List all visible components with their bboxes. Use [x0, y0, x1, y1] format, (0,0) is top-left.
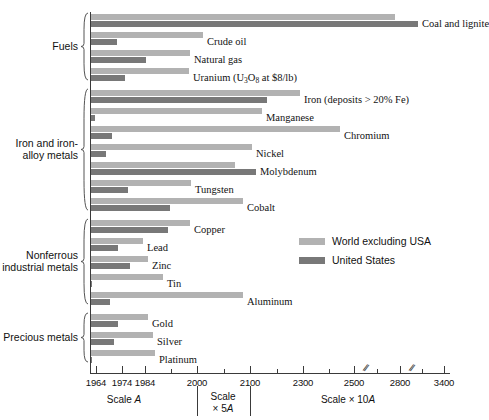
legend-item-world: World excluding USA	[299, 236, 431, 247]
group-label-iron-and-iron-alloy-metals: Iron and iron- alloy metals	[16, 137, 78, 162]
group-label-nonferrous-industrial-metals: Nonferrous industrial metals	[2, 249, 78, 274]
x-tick-2000	[197, 366, 198, 374]
group-brace-precious-metals	[80, 312, 89, 363]
bar-label-aluminum: Aluminum	[247, 296, 293, 308]
scale-divider-2	[250, 386, 251, 416]
bar-world-uranium	[91, 68, 189, 74]
bar-usa-cobalt	[91, 205, 170, 211]
group-brace-iron-and-iron-alloy-metals	[80, 88, 89, 211]
group-label-precious-metals: Precious metals	[3, 331, 78, 344]
bar-world-coal-and-lignite	[91, 14, 395, 20]
x-tick-3400	[444, 366, 445, 374]
bar-usa-zinc	[91, 263, 130, 269]
x-tick-label-2500: 2500	[344, 377, 364, 388]
bar-label-copper: Copper	[194, 224, 225, 236]
bar-usa-chromium	[91, 133, 112, 139]
bar-world-cobalt	[91, 198, 243, 204]
bar-usa-molybdenum	[91, 169, 256, 175]
bar-usa-natural-gas	[91, 57, 146, 63]
x-tick-1974	[122, 366, 123, 374]
bar-label-lead: Lead	[147, 242, 168, 254]
bar-world-lead	[91, 238, 143, 244]
scale-divider-1	[197, 386, 198, 416]
group-brace-fuels	[80, 12, 89, 81]
x-tick-label-2800: 2800	[390, 377, 410, 388]
bar-world-manganese	[91, 108, 262, 114]
bar-world-chromium	[91, 126, 340, 132]
x-tick-label-1984: 1984	[135, 377, 155, 388]
scale-caption-1: Scale A	[107, 394, 141, 406]
bar-label-natural-gas: Natural gas	[194, 54, 242, 66]
bar-usa-platinum	[91, 357, 92, 363]
bar-label-nickel: Nickel	[256, 148, 284, 160]
x-tick-2800	[400, 366, 401, 374]
x-tick-2300	[303, 366, 304, 374]
x-tick-minor-9	[329, 369, 330, 374]
legend-label-usa: United States	[332, 255, 395, 266]
legend-swatch-world	[299, 238, 325, 245]
bar-label-silver: Silver	[157, 336, 182, 348]
scale-caption-3: Scale × 10A	[321, 394, 375, 406]
bar-world-silver	[91, 332, 153, 338]
bar-usa-uranium	[91, 75, 125, 81]
bar-usa-tin	[91, 281, 92, 287]
group-label-fuels: Fuels	[52, 40, 78, 53]
x-tick-label-1964: 1964	[86, 377, 106, 388]
bar-label-crude-oil: Crude oil	[207, 36, 246, 48]
x-tick-label-3400: 3400	[434, 377, 454, 388]
bar-world-zinc	[91, 256, 148, 262]
bar-usa-crude-oil	[91, 39, 117, 45]
bar-world-natural-gas	[91, 50, 190, 56]
x-tick-minor-7	[277, 369, 278, 374]
bar-world-crude-oil	[91, 32, 203, 38]
x-tick-label-1974: 1974	[112, 377, 132, 388]
bar-label-iron: Iron (deposits > 20% Fe)	[304, 94, 409, 106]
x-tick-2100	[250, 366, 251, 374]
bar-world-molybdenum	[91, 162, 235, 168]
bar-usa-coal-and-lignite	[91, 21, 418, 27]
bar-label-tin: Tin	[167, 278, 181, 290]
x-tick-label-2300: 2300	[293, 377, 313, 388]
bar-usa-nickel	[91, 151, 106, 157]
x-tick-2500	[354, 366, 355, 374]
bar-world-iron	[91, 90, 300, 96]
bar-label-chromium: Chromium	[344, 130, 390, 142]
bar-label-cobalt: Cobalt	[247, 202, 275, 214]
x-tick-minor-3	[171, 369, 172, 374]
axis-break-2: //	[408, 362, 414, 373]
bar-usa-silver	[91, 339, 114, 345]
bar-world-tungsten	[91, 180, 191, 186]
x-tick-minor-13	[422, 369, 423, 374]
bar-label-molybdenum: Molybdenum	[260, 166, 317, 178]
bar-world-platinum	[91, 350, 155, 356]
bar-usa-lead	[91, 245, 118, 251]
bar-world-nickel	[91, 144, 252, 150]
bar-label-coal-and-lignite: Coal and lignite	[422, 18, 489, 30]
bar-label-uranium: Uranium (U3O8 at $8/lb)	[193, 72, 297, 85]
x-tick-1964	[96, 366, 97, 374]
bar-label-platinum: Platinum	[159, 354, 197, 366]
bar-label-manganese: Manganese	[266, 112, 314, 124]
legend-item-usa: United States	[299, 255, 431, 266]
bar-label-tungsten: Tungsten	[195, 184, 234, 196]
legend-label-world: World excluding USA	[332, 236, 431, 247]
bar-world-gold	[91, 314, 148, 320]
x-tick-minor-11	[377, 369, 378, 374]
bar-usa-aluminum	[91, 299, 110, 305]
bar-usa-tungsten	[91, 187, 128, 193]
group-brace-nonferrous-industrial-metals	[80, 218, 89, 305]
bar-usa-manganese	[91, 115, 95, 121]
legend: World excluding USA United States	[299, 236, 431, 274]
x-axis-line	[90, 373, 450, 374]
scale-caption-2: Scale × 5A	[210, 391, 235, 415]
bar-usa-gold	[91, 321, 118, 327]
x-tick-minor-5	[224, 369, 225, 374]
bar-world-aluminum	[91, 292, 243, 298]
x-tick-1984	[145, 366, 146, 374]
bar-usa-iron	[91, 97, 267, 103]
bar-label-gold: Gold	[152, 318, 173, 330]
bar-world-tin	[91, 274, 163, 280]
axis-break-1: //	[362, 362, 368, 373]
